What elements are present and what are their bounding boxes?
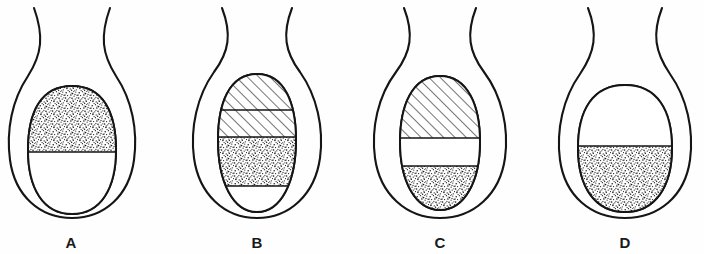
figure-svg: A B bbox=[0, 0, 704, 254]
panel-b-region-middle-hatch bbox=[210, 110, 304, 137]
panel-b-label: B bbox=[252, 234, 263, 251]
panel-d-label: D bbox=[620, 234, 631, 251]
panel-a-label: A bbox=[66, 234, 77, 251]
figure-container: A B bbox=[0, 0, 704, 254]
panel-c-region-middle-blank bbox=[392, 138, 488, 166]
panel-c-label: C bbox=[435, 234, 446, 251]
